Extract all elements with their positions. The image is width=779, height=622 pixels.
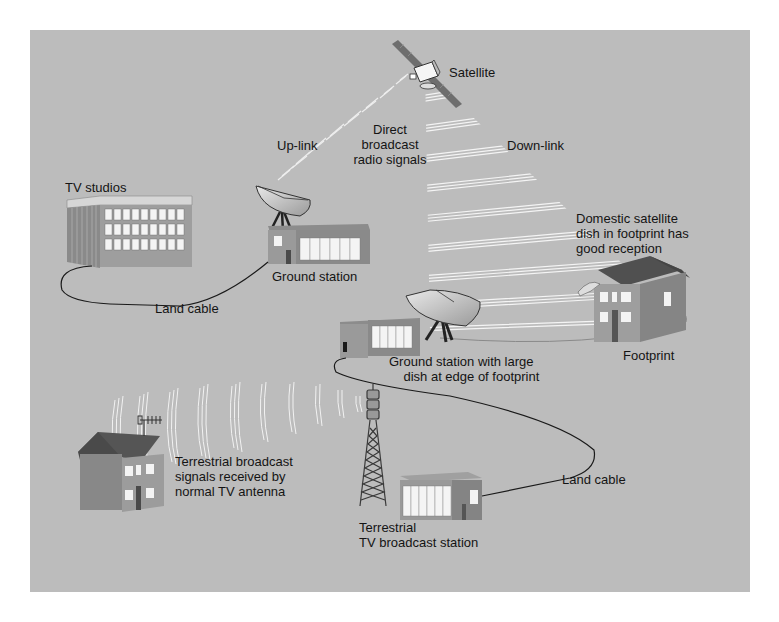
label-uplink: Up-link	[277, 138, 317, 153]
ground-station-large-building	[340, 290, 480, 358]
ground-station-building	[256, 186, 370, 264]
label-domestic-dish: Domestic satellite dish in footprint has…	[576, 211, 689, 256]
tv-studios-building	[67, 196, 192, 268]
label-land-cable-top: Land cable	[155, 301, 219, 316]
label-terrestrial-signals: Terrestrial broadcast signals received b…	[175, 454, 293, 499]
label-ground-station: Ground station	[272, 269, 357, 284]
label-footprint: Footprint	[623, 348, 674, 363]
label-land-cable-bottom: Land cable	[562, 472, 626, 487]
label-downlink: Down-link	[507, 138, 564, 153]
land-cable-top	[61, 262, 268, 306]
label-direct-broadcast: Direct broadcast radio signals	[340, 122, 440, 167]
terrestrial-station-building	[400, 472, 482, 520]
broadcast-tower	[360, 384, 386, 506]
terrestrial-house	[78, 416, 164, 512]
label-satellite: Satellite	[449, 65, 495, 80]
label-terrestrial-station: Terrestrial TV broadcast station	[359, 520, 478, 550]
label-tv-studios: TV studios	[65, 180, 126, 195]
label-ground-station-large: Ground station with large dish at edge o…	[389, 354, 539, 384]
